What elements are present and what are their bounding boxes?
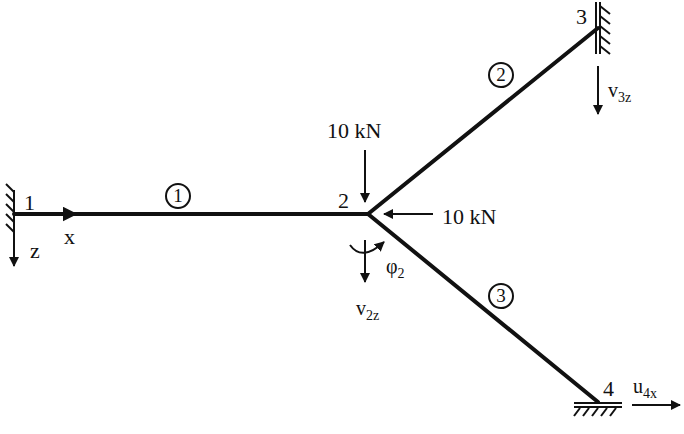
member-3-line	[368, 214, 598, 402]
node-2-label: 2	[338, 190, 349, 212]
v2z-label: v2z	[356, 298, 379, 318]
fixed-support-node-4-icon	[574, 403, 622, 416]
z-axis-label: z	[30, 240, 40, 262]
vertical-load-label: 10 kN	[327, 120, 381, 142]
phi2-rotation-arrow-icon	[350, 242, 384, 253]
member-3-label: 3	[488, 283, 514, 309]
node-4-label: 4	[603, 378, 614, 400]
x-axis-label: x	[64, 226, 75, 248]
fixed-support-node-1-icon	[6, 184, 14, 240]
u4x-label: u4x	[633, 376, 657, 396]
member-1-label: 1	[165, 183, 191, 209]
v3z-label: v3z	[608, 80, 631, 100]
phi2-label: φ2	[386, 256, 405, 276]
node-3-label: 3	[576, 6, 587, 28]
member-2-label: 2	[488, 62, 514, 88]
horizontal-load-label: 10 kN	[442, 206, 496, 228]
structure-diagram	[0, 0, 684, 434]
node-1-label: 1	[24, 192, 35, 214]
members	[14, 28, 598, 402]
member-2-line	[368, 28, 598, 214]
